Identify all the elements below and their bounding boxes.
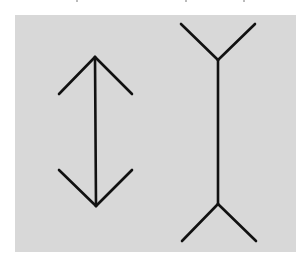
top-fin-line — [218, 24, 255, 60]
right-figure-fins-out — [181, 24, 256, 241]
top-fin-line — [181, 24, 218, 60]
muller-lyer-figure — [0, 0, 304, 263]
top-fin-line — [59, 57, 95, 94]
bottom-fin-line — [96, 170, 132, 206]
bottom-fin-line — [218, 204, 256, 241]
bottom-fin-line — [59, 170, 96, 206]
edge-artifact — [76, 0, 78, 2]
edge-artifact — [185, 0, 187, 2]
top-fin-line — [95, 57, 132, 94]
shaft-line — [95, 57, 96, 206]
bottom-fin-line — [182, 204, 218, 241]
edge-artifact — [243, 0, 245, 2]
left-figure-arrowheads-in — [59, 57, 132, 206]
